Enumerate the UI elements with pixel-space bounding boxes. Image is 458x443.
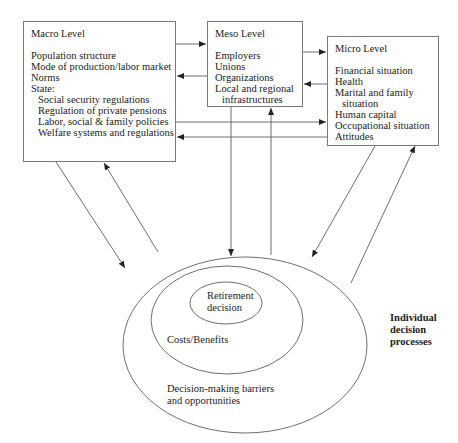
barriers-opportunities-label: Decision-making barriers and opportuniti…	[167, 383, 274, 407]
micro-item: Health	[335, 76, 431, 87]
side-label-line3: processes	[390, 336, 437, 348]
barriers-line1: Decision-making barriers	[167, 383, 274, 395]
arrow-macro-to-decision	[56, 162, 125, 268]
macro-item: State:	[31, 83, 168, 94]
macro-item: Social security regulations	[31, 94, 168, 105]
meso-item: Organizations	[215, 72, 295, 83]
individual-decision-processes-label: Individual decision processes	[390, 312, 437, 348]
macro-level-title: Macro Level	[31, 28, 168, 39]
macro-item: Mode of production/labor market	[31, 61, 168, 72]
macro-item: Population structure	[31, 50, 168, 61]
macro-item: Norms	[31, 72, 168, 83]
micro-item: Financial situation	[335, 65, 431, 76]
macro-item: Regulation of private pensions	[31, 105, 168, 116]
arrow-decision-to-micro	[351, 146, 415, 283]
macro-item: Labor, social & family policies	[31, 116, 168, 127]
retirement-decision-line1: Retirement	[207, 290, 254, 302]
meso-item: Local and regional	[215, 83, 295, 94]
side-label-line2: decision	[390, 324, 437, 336]
macro-level-box: Macro Level Population structure Mode of…	[23, 21, 176, 162]
micro-item: situation	[335, 98, 431, 109]
meso-level-box: Meso Level Employers Unions Organization…	[207, 21, 303, 107]
micro-item: Human capital	[335, 109, 431, 120]
meso-item: Employers	[215, 50, 295, 61]
micro-level-box: Micro Level Financial situation Health M…	[327, 36, 439, 146]
macro-item: Welfare systems and regulations	[31, 127, 168, 138]
side-label-line1: Individual	[390, 312, 437, 324]
micro-item: Marital and family	[335, 87, 431, 98]
micro-level-title: Micro Level	[335, 43, 431, 54]
costs-benefits-label: Costs/Benefits	[167, 334, 228, 346]
meso-item: Unions	[215, 61, 295, 72]
arrow-micro-to-decision	[312, 146, 375, 257]
micro-item: Attitudes	[335, 131, 431, 142]
meso-item: infrastructures	[215, 94, 295, 105]
micro-item: Occupational situation	[335, 120, 431, 131]
retirement-decision-label: Retirement decision	[207, 290, 254, 314]
meso-level-title: Meso Level	[215, 28, 295, 39]
barriers-line2: and opportunities	[167, 395, 274, 407]
arrow-decision-to-macro	[104, 163, 158, 252]
retirement-decision-line2: decision	[207, 302, 254, 314]
